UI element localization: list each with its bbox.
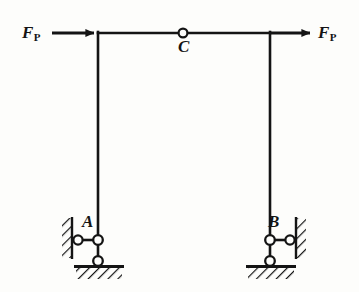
frame-members xyxy=(98,32,270,240)
support-b-ground-icon xyxy=(246,267,296,280)
support-b-wall-icon xyxy=(296,217,306,259)
support-a-pin-ground-icon xyxy=(93,256,103,266)
force-label-right: FP xyxy=(318,24,336,41)
support-b-pin-wall-icon xyxy=(285,235,294,244)
support-a-pin-wall-icon xyxy=(73,235,82,244)
force-label-left: FP xyxy=(22,24,40,41)
figure-root: FP FP C A B xyxy=(0,0,359,292)
support-b-label: B xyxy=(268,213,279,230)
force-label-right-symbol: F xyxy=(318,23,329,42)
support-b-pin-main-icon xyxy=(265,235,275,245)
support-b-pin-ground-icon xyxy=(265,256,275,266)
support-a-pin-main-icon xyxy=(93,235,103,245)
hinge-c-label: C xyxy=(178,38,189,55)
support-a-label: A xyxy=(82,213,93,230)
force-label-right-subscript: P xyxy=(330,31,337,43)
force-label-left-symbol: F xyxy=(22,23,33,42)
support-a-wall-icon xyxy=(62,217,72,259)
support-a-ground-icon xyxy=(74,267,124,280)
force-label-left-subscript: P xyxy=(34,31,41,43)
